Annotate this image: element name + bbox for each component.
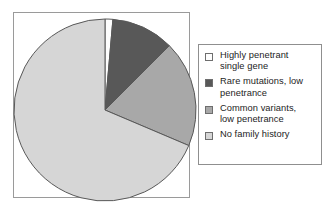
legend-swatch-highly-penetrant-single-gene: [205, 53, 213, 61]
legend-item-rare-mutations-low-penetrance[interactable]: Rare mutations, low penetrance: [205, 76, 317, 98]
legend-label-common-variants-low-penetrance: Common variants, low penetrance: [220, 103, 296, 125]
legend-item-highly-penetrant-single-gene[interactable]: Highly penetrant single gene: [205, 50, 317, 72]
legend-item-no-family-history[interactable]: No family history: [205, 129, 317, 140]
legend-label-no-family-history: No family history: [220, 129, 290, 140]
legend-swatch-common-variants-low-penetrance: [205, 106, 213, 114]
pie-chart-figure: Highly penetrant single gene Rare mutati…: [0, 0, 334, 211]
pie-slice-group: [14, 19, 196, 201]
pie-svg: [13, 18, 197, 202]
pie-chart: [13, 18, 197, 202]
legend-swatch-rare-mutations-low-penetrance: [205, 79, 213, 87]
legend-item-common-variants-low-penetrance[interactable]: Common variants, low penetrance: [205, 103, 317, 125]
legend-label-rare-mutations-low-penetrance: Rare mutations, low penetrance: [220, 76, 303, 98]
chart-legend: Highly penetrant single gene Rare mutati…: [198, 44, 322, 165]
legend-label-highly-penetrant-single-gene: Highly penetrant single gene: [220, 50, 289, 72]
legend-swatch-no-family-history: [205, 132, 213, 140]
